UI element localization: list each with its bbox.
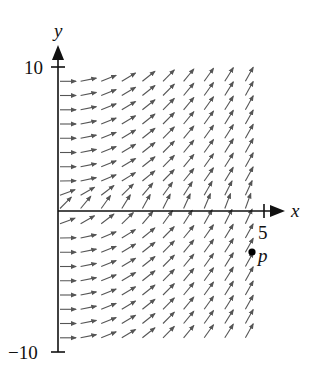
field-arrow: [81, 306, 97, 309]
field-arrow: [163, 182, 172, 195]
field-arrow: [101, 261, 116, 267]
field-arrow: [204, 168, 213, 181]
field-arrow: [204, 325, 213, 338]
field-arrow: [245, 124, 253, 138]
field-arrow: [245, 281, 253, 295]
field-arrow: [245, 139, 253, 153]
point-p-marker: [248, 248, 255, 255]
field-arrow: [225, 68, 234, 82]
field-arrow: [122, 130, 136, 138]
y-axis-arrowhead-icon: [52, 45, 64, 60]
field-arrow: [122, 102, 136, 110]
field-arrow: [225, 194, 231, 209]
field-arrow: [142, 86, 155, 96]
field-arrow: [225, 224, 233, 238]
field-arrow: [81, 320, 97, 323]
y-tick-label-10: 10: [24, 57, 43, 78]
field-arrow: [204, 194, 210, 209]
field-arrow: [163, 211, 172, 224]
field-arrow: [81, 292, 97, 295]
field-arrow: [184, 112, 194, 124]
field-arrow: [122, 230, 136, 238]
field-arrow: [142, 328, 155, 338]
field-arrow: [142, 314, 155, 324]
field-arrow: [163, 269, 174, 280]
field-arrow: [101, 246, 116, 252]
field-arrow: [163, 84, 174, 95]
field-arrow: [225, 253, 234, 267]
field-arrow: [101, 318, 116, 324]
field-arrow: [184, 98, 194, 110]
field-arrow: [81, 249, 97, 252]
field-arrow: [142, 228, 154, 238]
field-arrow: [225, 324, 234, 338]
field-arrow: [225, 181, 232, 195]
field-arrow: [122, 213, 134, 224]
field-arrow: [184, 69, 194, 81]
field-arrow: [81, 78, 97, 81]
field-arrow: [142, 285, 155, 295]
field-arrow: [122, 301, 136, 309]
field-arrow: [204, 83, 213, 96]
field-arrow: [81, 121, 97, 124]
field-arrow: [81, 149, 97, 152]
field-arrow: [204, 282, 213, 295]
y-axis-label: y: [52, 20, 63, 41]
field-arrow: [204, 210, 212, 224]
field-arrow: [142, 143, 155, 153]
field-arrow: [142, 114, 155, 124]
field-arrow: [204, 140, 213, 153]
field-arrow: [184, 155, 194, 167]
field-arrow: [163, 284, 174, 295]
x-axis-arrowhead-icon: [270, 205, 285, 217]
field-arrow: [101, 332, 116, 338]
field-arrow: [81, 178, 97, 181]
vector-field-plot: y x 10 −10 5 p: [0, 0, 323, 379]
field-arrow: [204, 225, 213, 238]
field-arrow: [225, 167, 233, 181]
field-arrow: [225, 110, 234, 124]
field-arrow: [204, 181, 212, 195]
field-arrow: [204, 125, 213, 138]
field-arrow: [245, 153, 253, 167]
field-arrow: [142, 212, 152, 224]
field-arrow: [122, 315, 136, 323]
field-arrow: [81, 235, 97, 238]
field-arrow: [81, 92, 97, 95]
field-arrow: [245, 67, 253, 81]
field-arrow: [101, 175, 116, 181]
field-arrow: [184, 283, 194, 295]
field-arrow: [142, 171, 154, 181]
field-arrow: [225, 153, 234, 167]
field-arrow: [204, 254, 213, 267]
field-arrow: [204, 239, 213, 252]
field-arrow: [101, 90, 116, 96]
field-arrow: [225, 239, 234, 253]
field-arrow: [163, 255, 174, 266]
field-arrow: [81, 278, 97, 281]
field-arrow: [101, 132, 116, 138]
field-arrow: [142, 100, 155, 110]
field-arrow: [245, 110, 253, 124]
field-arrow: [81, 335, 97, 338]
field-arrow: [163, 298, 174, 309]
field-arrow: [101, 104, 116, 110]
field-arrow: [122, 159, 136, 167]
field-arrow: [142, 195, 150, 209]
field-arrow: [245, 96, 253, 110]
field-arrow: [225, 267, 234, 281]
field-arrow: [163, 312, 174, 323]
field-arrow: [81, 187, 95, 195]
field-arrow: [245, 324, 253, 338]
field-arrow: [184, 169, 194, 181]
field-arrow: [204, 97, 213, 110]
x-tick-label-5: 5: [258, 222, 268, 243]
field-arrow: [101, 232, 116, 238]
field-arrow: [122, 287, 136, 295]
field-arrow: [142, 157, 155, 167]
field-arrow: [184, 140, 194, 152]
field-arrow: [204, 268, 213, 281]
field-arrow: [163, 98, 174, 109]
field-arrow: [142, 299, 155, 309]
field-arrow: [60, 190, 75, 196]
